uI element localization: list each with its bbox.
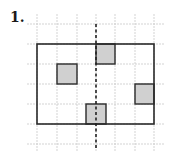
- shaded-square-right: [135, 84, 154, 104]
- symmetry-grid-diagram: [0, 0, 176, 156]
- shaded-square-top: [96, 44, 115, 64]
- shaded-square-left: [57, 64, 77, 84]
